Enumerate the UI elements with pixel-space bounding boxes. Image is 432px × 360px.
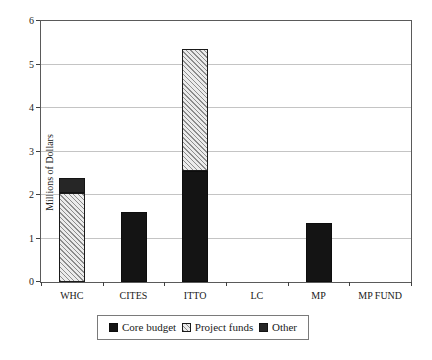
- gridline-5: [41, 64, 411, 65]
- x-category-label-mp-fund: MP FUND: [358, 290, 402, 301]
- legend: Core budgetProject fundsOther: [97, 315, 309, 340]
- plot-area: Millions of Dollars 0123456: [40, 20, 412, 283]
- y-tick-mark-0: [36, 281, 40, 282]
- x-tick-mark-5: [349, 282, 350, 286]
- gridline-2: [41, 194, 411, 195]
- y-tick-mark-4: [36, 107, 40, 108]
- legend-swatch-hatch-icon: [182, 323, 191, 332]
- x-category-label-mp: MP: [311, 290, 325, 301]
- y-tick-label-6: 6: [21, 16, 34, 26]
- bar-segment-core-budget-itto: [182, 171, 208, 282]
- y-axis-title: Millions of Dollars: [44, 108, 55, 238]
- y-tick-label-5: 5: [21, 60, 34, 70]
- y-tick-mark-6: [36, 20, 40, 21]
- x-tick-mark-6: [411, 282, 412, 286]
- y-tick-label-0: 0: [21, 277, 34, 287]
- legend-label: Other: [272, 322, 297, 333]
- x-tick-mark-3: [226, 282, 227, 286]
- x-tick-mark-4: [288, 282, 289, 286]
- bar-segment-project-funds-itto: [182, 49, 208, 171]
- stacked-bar-chart-figure: Millions of Dollars 0123456 WHCCITESITTO…: [0, 0, 432, 360]
- x-tick-mark-1: [103, 282, 104, 286]
- y-tick-mark-1: [36, 238, 40, 239]
- legend-item-other: Other: [259, 322, 297, 333]
- gridline-1: [41, 238, 411, 239]
- legend-item-project-funds: Project funds: [182, 322, 253, 333]
- x-category-label-itto: ITTO: [184, 290, 207, 301]
- legend-item-core-budget: Core budget: [109, 322, 176, 333]
- x-tick-mark-0: [41, 282, 42, 286]
- y-tick-mark-5: [36, 64, 40, 65]
- bar-segment-core-budget-cites: [121, 212, 147, 282]
- x-tick-mark-2: [164, 282, 165, 286]
- y-tick-label-4: 4: [21, 103, 34, 113]
- bar-segment-core-budget-mp: [306, 223, 332, 282]
- legend-swatch-solid-dark-icon: [259, 323, 268, 332]
- bar-segment-other-whc: [59, 178, 85, 193]
- x-category-label-lc: LC: [250, 290, 263, 301]
- y-tick-label-1: 1: [21, 234, 34, 244]
- bar-segment-project-funds-whc: [59, 193, 85, 282]
- gridline-4: [41, 107, 411, 108]
- x-category-label-cites: CITES: [120, 290, 148, 301]
- legend-label: Core budget: [122, 322, 176, 333]
- legend-label: Project funds: [195, 322, 253, 333]
- gridline-3: [41, 151, 411, 152]
- y-tick-mark-2: [36, 194, 40, 195]
- y-tick-label-3: 3: [21, 147, 34, 157]
- y-tick-label-2: 2: [21, 190, 34, 200]
- legend-swatch-solid-black-icon: [109, 323, 118, 332]
- x-category-label-whc: WHC: [60, 290, 83, 301]
- y-tick-mark-3: [36, 151, 40, 152]
